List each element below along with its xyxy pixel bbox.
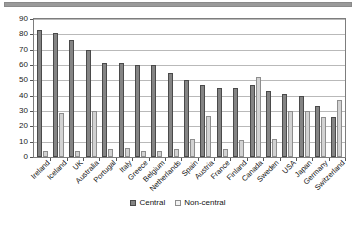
bar-group (231, 19, 247, 157)
bar-non-central (305, 111, 310, 157)
bar-group (280, 19, 296, 157)
bar-group (67, 19, 83, 157)
y-axis-tick-label: 60 (19, 61, 28, 69)
x-axis-tick-mark (214, 158, 215, 161)
bar-group (181, 19, 197, 157)
bar-central (217, 88, 222, 157)
window-title-band (4, 2, 352, 7)
y-axis: 0102030405060708090 (0, 0, 33, 158)
legend-label: Non-central (184, 198, 225, 207)
x-axis-tick-mark (230, 158, 231, 161)
bar-group (132, 19, 148, 157)
bar-group (50, 19, 66, 157)
bar-non-central (321, 117, 326, 157)
x-axis-tick-mark (132, 158, 133, 161)
bar-group (116, 19, 132, 157)
y-axis-tick-label: 80 (19, 30, 28, 38)
x-axis-tick-mark (83, 158, 84, 161)
legend-item: Non-central (175, 198, 225, 207)
bar-non-central (75, 151, 80, 157)
bar-central (119, 63, 124, 157)
y-axis-tick-label: 0 (24, 153, 28, 161)
bar-group (165, 19, 181, 157)
bar-central (233, 88, 238, 157)
bar-group (312, 19, 328, 157)
bar-non-central (43, 151, 48, 157)
bar-central (250, 85, 255, 157)
bar-central (102, 63, 107, 157)
bar-non-central (256, 77, 261, 157)
bar-non-central (125, 148, 130, 157)
y-axis-tick-label: 40 (19, 92, 28, 100)
chart-legend: CentralNon-central (0, 198, 356, 207)
bar-non-central (157, 151, 162, 157)
bar-group (34, 19, 50, 157)
x-axis-tick-mark (165, 158, 166, 161)
bars-layer (34, 19, 345, 157)
legend-item: Central (130, 198, 165, 207)
bar-group (214, 19, 230, 157)
bar-group (198, 19, 214, 157)
bar-group (329, 19, 345, 157)
x-axis-tick-mark (345, 158, 346, 161)
x-axis-tick-mark (198, 158, 199, 161)
bar-group (263, 19, 279, 157)
y-axis-tick-label: 90 (19, 15, 28, 23)
x-axis-tick-mark (50, 158, 51, 161)
x-axis-tick-mark (280, 158, 281, 161)
x-axis-tick-mark (312, 158, 313, 161)
x-axis-tick-mark (329, 158, 330, 161)
y-axis-tick-label: 50 (19, 76, 28, 84)
bar-chart: 0102030405060708090 IrelandIcelandUKAust… (0, 0, 356, 227)
x-axis-tick-mark (116, 158, 117, 161)
x-axis-tick-mark (99, 158, 100, 161)
x-axis-tick-mark (247, 158, 248, 161)
legend-swatch-non-central (175, 200, 181, 206)
bar-group (296, 19, 312, 157)
bar-central (53, 33, 58, 157)
bar-non-central (337, 100, 342, 157)
y-axis-tick-label: 30 (19, 107, 28, 115)
bar-non-central (206, 116, 211, 157)
bar-central (86, 50, 91, 157)
bar-central (315, 106, 320, 157)
bar-group (247, 19, 263, 157)
bar-non-central (92, 111, 97, 157)
y-axis-tick-label: 20 (19, 122, 28, 130)
bar-central (135, 65, 140, 157)
legend-swatch-central (130, 200, 136, 206)
bar-central (331, 117, 336, 157)
bar-non-central (174, 149, 179, 157)
x-axis-tick-mark (67, 158, 68, 161)
x-axis-tick-mark (263, 158, 264, 161)
x-axis-tick-mark (181, 158, 182, 161)
x-axis-tick-mark (296, 158, 297, 161)
bar-central (282, 94, 287, 157)
bar-non-central (59, 113, 64, 157)
bar-non-central (223, 149, 228, 157)
bar-non-central (190, 139, 195, 157)
bar-non-central (108, 149, 113, 157)
bar-central (151, 65, 156, 157)
bar-group (83, 19, 99, 157)
bar-central (168, 73, 173, 157)
bar-non-central (272, 139, 277, 157)
bar-central (184, 80, 189, 157)
bar-central (299, 96, 304, 157)
bar-non-central (288, 111, 293, 157)
y-axis-tick-label: 70 (19, 46, 28, 54)
bar-central (266, 91, 271, 157)
bar-non-central (239, 140, 244, 157)
bar-non-central (141, 151, 146, 157)
bar-central (69, 40, 74, 157)
bar-group (100, 19, 116, 157)
bar-central (200, 85, 205, 157)
x-axis-tick-mark (149, 158, 150, 161)
y-axis-tick-label: 10 (19, 138, 28, 146)
legend-label: Central (139, 198, 165, 207)
bar-central (37, 30, 42, 157)
bar-group (149, 19, 165, 157)
